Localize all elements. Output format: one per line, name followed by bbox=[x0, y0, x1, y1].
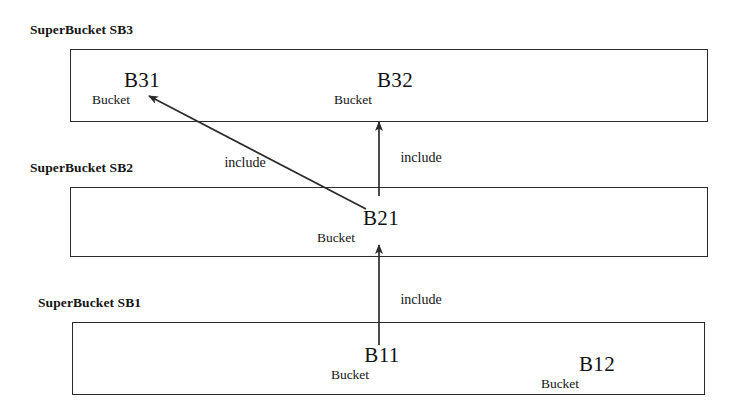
group-label-sb1: SuperBucket SB1 bbox=[38, 295, 141, 311]
bucket-subtitle-b21: Bucket bbox=[317, 230, 355, 246]
bucket-name-b21[interactable]: B21 bbox=[363, 206, 399, 231]
edge-label-b11-to-b21: include bbox=[400, 292, 441, 308]
bucket-name-b11[interactable]: B11 bbox=[364, 343, 399, 368]
bucket-subtitle-b31: Bucket bbox=[92, 92, 130, 108]
diagram-canvas: SuperBucket SB3 SuperBucket SB2 SuperBuc… bbox=[0, 0, 733, 419]
group-label-sb2: SuperBucket SB2 bbox=[30, 160, 133, 176]
edge-label-b21-to-b32: include bbox=[400, 150, 441, 166]
bucket-subtitle-b12: Bucket bbox=[541, 376, 579, 392]
bucket-subtitle-b32: Bucket bbox=[334, 92, 372, 108]
bucket-name-b12[interactable]: B12 bbox=[579, 352, 615, 377]
bucket-subtitle-b11: Bucket bbox=[331, 367, 369, 383]
edge-label-b21-to-b31: include bbox=[224, 155, 265, 171]
bucket-name-b32[interactable]: B32 bbox=[377, 68, 413, 93]
group-label-sb3: SuperBucket SB3 bbox=[30, 22, 133, 38]
bucket-name-b31[interactable]: B31 bbox=[124, 68, 160, 93]
